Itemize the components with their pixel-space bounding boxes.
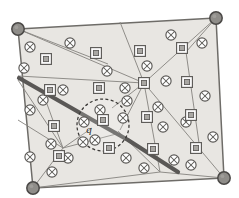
geometry-figure: q bbox=[0, 0, 239, 198]
circle-x-marker bbox=[186, 160, 196, 170]
vertex-bottom-right bbox=[218, 172, 230, 184]
circle-x-marker bbox=[208, 132, 218, 142]
circle-x-marker bbox=[122, 96, 132, 106]
circle-x-marker bbox=[153, 102, 163, 112]
circle-x-marker bbox=[121, 153, 131, 163]
square-node-marker bbox=[94, 83, 105, 94]
square-node-marker bbox=[182, 77, 193, 88]
square-node-marker bbox=[45, 85, 56, 96]
circle-x-marker bbox=[142, 61, 152, 71]
circle-x-marker bbox=[25, 105, 35, 115]
vertex-top-right bbox=[210, 12, 222, 24]
circle-x-marker bbox=[169, 155, 179, 165]
circle-x-marker bbox=[38, 95, 48, 105]
circle-x-marker bbox=[25, 42, 35, 52]
square-node-marker bbox=[142, 112, 153, 123]
square-node-marker bbox=[54, 151, 65, 162]
vertex-bottom-left bbox=[27, 182, 39, 194]
vertex-top-left bbox=[12, 23, 24, 35]
square-node-marker bbox=[41, 54, 52, 65]
square-node-marker bbox=[148, 144, 159, 155]
circle-x-marker bbox=[139, 163, 149, 173]
square-node-marker bbox=[135, 46, 146, 57]
figure-canvas: q bbox=[0, 0, 239, 198]
circle-x-marker bbox=[58, 85, 68, 95]
square-node-marker bbox=[191, 143, 202, 154]
circle-x-marker bbox=[161, 76, 171, 86]
square-node-marker bbox=[49, 121, 60, 132]
circle-x-marker bbox=[95, 105, 105, 115]
circle-x-marker bbox=[166, 30, 176, 40]
circle-x-marker bbox=[197, 38, 207, 48]
square-node-marker bbox=[91, 48, 102, 59]
query-point-label: q bbox=[86, 123, 92, 135]
square-node-marker bbox=[104, 143, 115, 154]
circle-x-marker bbox=[120, 83, 130, 93]
circle-x-marker bbox=[78, 137, 88, 147]
circle-x-marker bbox=[19, 63, 29, 73]
square-node-marker bbox=[139, 78, 150, 89]
circle-x-marker bbox=[25, 152, 35, 162]
circle-x-marker bbox=[47, 167, 57, 177]
circle-x-marker bbox=[200, 91, 210, 101]
square-node-marker bbox=[186, 110, 197, 121]
query-point-label: q bbox=[86, 123, 92, 135]
circle-x-marker bbox=[65, 38, 75, 48]
circle-x-marker bbox=[118, 113, 128, 123]
square-node-marker bbox=[98, 115, 109, 126]
circle-x-marker bbox=[46, 139, 56, 149]
circle-x-marker bbox=[102, 66, 112, 76]
circle-x-marker bbox=[90, 135, 100, 145]
square-node-marker bbox=[177, 43, 188, 54]
circle-x-marker bbox=[158, 122, 168, 132]
